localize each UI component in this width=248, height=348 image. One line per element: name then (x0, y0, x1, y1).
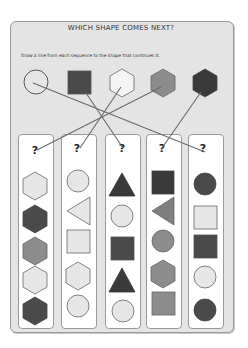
sequence-column-3 (105, 134, 141, 329)
sequence-column-1 (18, 134, 54, 329)
worksheet-title: WHICH SHAPE COMES NEXT? (10, 24, 232, 32)
question-mark-4: ? (155, 142, 169, 155)
worksheet: WHICH SHAPE COMES NEXT? Draw a line from… (0, 0, 248, 348)
sequence-column-2 (61, 134, 97, 329)
question-mark-2: ? (70, 142, 84, 155)
sequence-column-5 (188, 134, 224, 329)
question-mark-1: ? (28, 144, 42, 157)
sequence-column-4 (146, 134, 182, 329)
question-mark-5: ? (196, 142, 210, 155)
question-mark-3: ? (115, 142, 129, 155)
worksheet-instruction: Draw a line from each sequence to the sh… (21, 53, 160, 58)
